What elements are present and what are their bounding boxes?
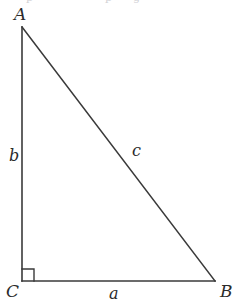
vertex-label-a: A — [14, 6, 26, 23]
right-triangle-figure: p p g A B C a b c — [0, 0, 238, 305]
side-c-hypotenuse-segment — [22, 27, 215, 281]
right-angle-marker-icon — [22, 269, 34, 281]
side-label-c: c — [132, 143, 141, 159]
side-label-a: a — [109, 286, 119, 302]
vertex-label-b: B — [220, 283, 233, 300]
triangle-drawing — [0, 0, 238, 305]
vertex-label-c: C — [6, 283, 19, 300]
side-label-b: b — [9, 148, 19, 164]
